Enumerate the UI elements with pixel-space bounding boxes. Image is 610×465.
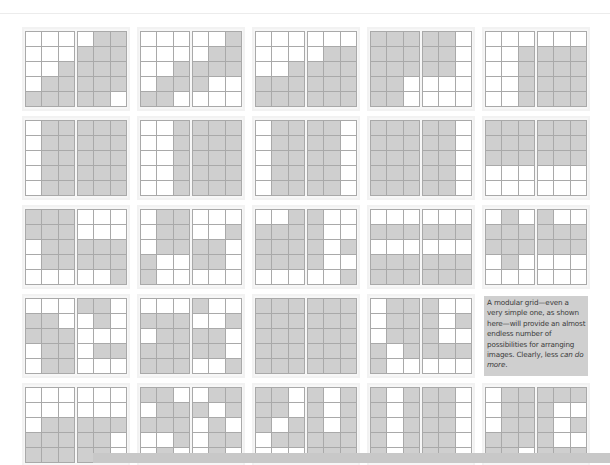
empty-module [256, 121, 271, 135]
image-module [538, 136, 553, 150]
image-module [571, 418, 586, 432]
empty-module [423, 77, 438, 91]
page-right [537, 120, 587, 196]
image-module [324, 92, 339, 106]
image-module [174, 181, 189, 195]
image-module [371, 62, 386, 76]
empty-module [209, 210, 224, 224]
image-module [157, 77, 172, 91]
page-left [370, 298, 420, 374]
empty-module [111, 299, 126, 313]
image-module [111, 166, 126, 180]
empty-module [554, 210, 569, 224]
empty-module [486, 255, 501, 269]
image-module [404, 225, 419, 239]
empty-module [256, 47, 271, 61]
empty-module [324, 270, 339, 284]
top-rule [0, 13, 610, 14]
image-module [226, 314, 241, 328]
image-module [272, 181, 287, 195]
empty-module [272, 210, 287, 224]
image-module [538, 210, 553, 224]
empty-module [59, 32, 74, 46]
empty-module [226, 344, 241, 358]
caption-end: . [505, 360, 507, 369]
empty-module [554, 403, 569, 417]
image-module [174, 151, 189, 165]
empty-module [111, 433, 126, 447]
image-module [404, 166, 419, 180]
empty-module [571, 32, 586, 46]
empty-module [371, 210, 386, 224]
empty-module [324, 225, 339, 239]
image-module [289, 344, 304, 358]
image-module [111, 344, 126, 358]
image-module [256, 314, 271, 328]
image-module [209, 329, 224, 343]
image-module [289, 181, 304, 195]
image-module [538, 418, 553, 432]
empty-module [157, 299, 172, 313]
image-module [387, 314, 402, 328]
empty-module [519, 270, 534, 284]
bottom-bar [93, 453, 610, 463]
image-module [174, 166, 189, 180]
image-module [571, 92, 586, 106]
image-module [538, 62, 553, 76]
empty-module [404, 92, 419, 106]
empty-module [78, 344, 93, 358]
page-right [77, 387, 127, 463]
image-module [59, 151, 74, 165]
image-module [78, 136, 93, 150]
empty-module [324, 210, 339, 224]
empty-module [141, 47, 156, 61]
image-module [209, 121, 224, 135]
empty-module [486, 92, 501, 106]
empty-module [193, 225, 208, 239]
image-module [289, 136, 304, 150]
empty-module [256, 181, 271, 195]
image-module [59, 329, 74, 343]
image-module [371, 418, 386, 432]
empty-module [439, 240, 454, 254]
page-left [370, 120, 420, 196]
image-module [341, 299, 356, 313]
empty-module [78, 225, 93, 239]
page-right [192, 387, 242, 463]
image-module [341, 62, 356, 76]
image-module [519, 151, 534, 165]
image-module [486, 151, 501, 165]
empty-module [456, 181, 471, 195]
image-module [94, 62, 109, 76]
image-module [111, 32, 126, 46]
image-module [272, 136, 287, 150]
image-module [423, 329, 438, 343]
image-module [59, 166, 74, 180]
image-module [111, 240, 126, 254]
image-module [439, 47, 454, 61]
image-module [502, 210, 517, 224]
empty-module [502, 77, 517, 91]
image-module [78, 299, 93, 313]
image-module [157, 329, 172, 343]
image-module [209, 433, 224, 447]
image-module [42, 225, 57, 239]
empty-module [538, 166, 553, 180]
empty-module [486, 270, 501, 284]
image-module [26, 448, 41, 462]
image-module [371, 77, 386, 91]
image-module [308, 62, 323, 76]
image-module [256, 359, 271, 373]
page-left [255, 120, 305, 196]
image-module [371, 270, 386, 284]
image-module [226, 359, 241, 373]
page-left [485, 209, 535, 285]
empty-module [456, 418, 471, 432]
empty-module [439, 314, 454, 328]
image-module [341, 344, 356, 358]
image-module [324, 314, 339, 328]
empty-module [42, 47, 57, 61]
empty-module [26, 151, 41, 165]
empty-module [174, 92, 189, 106]
image-module [289, 359, 304, 373]
